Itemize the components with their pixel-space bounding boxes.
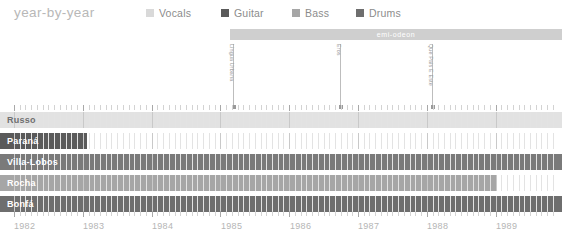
gridline bbox=[312, 196, 313, 212]
gridline bbox=[335, 196, 336, 212]
timeline-row[interactable]: Villa-Lobos bbox=[0, 154, 578, 170]
gridline bbox=[140, 154, 141, 170]
gridline bbox=[496, 196, 497, 212]
month-tick bbox=[134, 105, 135, 110]
release-annotation-marker[interactable]: Eros bbox=[340, 44, 341, 107]
gridline bbox=[215, 154, 216, 170]
gridline bbox=[398, 175, 399, 191]
gridline bbox=[146, 196, 147, 212]
gridline bbox=[519, 196, 520, 212]
month-tick bbox=[329, 105, 330, 110]
gridline bbox=[106, 175, 107, 191]
gridline bbox=[266, 112, 267, 128]
gridline bbox=[77, 175, 78, 191]
x-axis: 19821983198419851986198719881989 bbox=[0, 219, 578, 242]
gridline bbox=[238, 196, 239, 212]
gridline bbox=[473, 175, 474, 191]
gridline bbox=[410, 196, 411, 212]
gridline bbox=[37, 196, 38, 212]
month-tick bbox=[255, 105, 256, 110]
month-tick bbox=[547, 105, 548, 110]
month-tick bbox=[117, 211, 118, 216]
gridline bbox=[536, 154, 537, 170]
gridline bbox=[283, 112, 284, 128]
month-tick bbox=[77, 211, 78, 216]
month-tick bbox=[163, 211, 164, 216]
timeline-row[interactable]: Russo bbox=[0, 112, 578, 128]
gridline bbox=[197, 133, 198, 149]
month-tick bbox=[450, 105, 451, 110]
legend-item-guitar[interactable]: Guitar bbox=[221, 7, 264, 19]
gridline bbox=[352, 196, 353, 212]
gridline bbox=[226, 154, 227, 170]
year-tick bbox=[14, 105, 15, 111]
month-tick bbox=[278, 211, 279, 216]
gridline bbox=[541, 196, 542, 212]
gridline bbox=[77, 133, 78, 149]
gridline bbox=[94, 112, 95, 128]
gridline bbox=[421, 112, 422, 128]
year-tick bbox=[152, 105, 153, 111]
gridline bbox=[289, 112, 290, 128]
gridline bbox=[484, 112, 485, 128]
gridline bbox=[530, 196, 531, 212]
month-tick bbox=[341, 211, 342, 216]
gridline bbox=[140, 175, 141, 191]
gridline bbox=[220, 154, 221, 170]
gridline bbox=[553, 133, 554, 149]
gridline bbox=[249, 196, 250, 212]
gridline bbox=[111, 196, 112, 212]
gridline bbox=[404, 196, 405, 212]
gridline bbox=[433, 196, 434, 212]
gridline bbox=[163, 154, 164, 170]
gridline bbox=[358, 112, 359, 128]
gridline bbox=[335, 133, 336, 149]
gridline bbox=[71, 196, 72, 212]
timeline-row[interactable]: Bonfá bbox=[0, 196, 578, 212]
month-tick bbox=[541, 105, 542, 110]
gridline bbox=[536, 196, 537, 212]
gridline bbox=[519, 133, 520, 149]
gridline bbox=[490, 133, 491, 149]
timeline-row-gridlines bbox=[0, 175, 578, 191]
month-tick bbox=[180, 105, 181, 110]
legend-item-vocals[interactable]: Vocals bbox=[146, 7, 191, 19]
legend-item-drums[interactable]: Drums bbox=[356, 7, 401, 19]
gridline bbox=[364, 133, 365, 149]
label-period-band: emi-odeon bbox=[230, 29, 562, 40]
month-tick bbox=[186, 105, 187, 110]
month-tick bbox=[192, 211, 193, 216]
gridline bbox=[421, 133, 422, 149]
legend-item-bass[interactable]: Bass bbox=[292, 7, 329, 19]
month-tick bbox=[175, 211, 176, 216]
gridline bbox=[249, 112, 250, 128]
gridline bbox=[415, 133, 416, 149]
gridline bbox=[54, 133, 55, 149]
gridline bbox=[501, 112, 502, 128]
gridline bbox=[232, 196, 233, 212]
month-tick bbox=[100, 211, 101, 216]
gridline bbox=[404, 175, 405, 191]
gridline bbox=[266, 133, 267, 149]
gridline bbox=[209, 196, 210, 212]
gridline bbox=[513, 175, 514, 191]
gridline bbox=[238, 112, 239, 128]
gridline bbox=[163, 196, 164, 212]
gridline bbox=[215, 133, 216, 149]
gridline bbox=[278, 196, 279, 212]
month-tick bbox=[283, 211, 284, 216]
gridline bbox=[507, 175, 508, 191]
gridline bbox=[478, 133, 479, 149]
gridline bbox=[140, 112, 141, 128]
gridline bbox=[283, 133, 284, 149]
release-annotation-marker[interactable]: Que Pais E Este bbox=[432, 44, 433, 107]
gridline bbox=[329, 112, 330, 128]
timeline-row[interactable]: Rocha bbox=[0, 175, 578, 191]
release-annotation-marker[interactable]: Lingua Urbana bbox=[233, 44, 234, 107]
gridline bbox=[484, 154, 485, 170]
month-tick bbox=[375, 105, 376, 110]
gridline bbox=[134, 133, 135, 149]
year-tick bbox=[496, 105, 497, 111]
month-tick bbox=[364, 211, 365, 216]
timeline-row[interactable]: Paraná bbox=[0, 133, 578, 149]
